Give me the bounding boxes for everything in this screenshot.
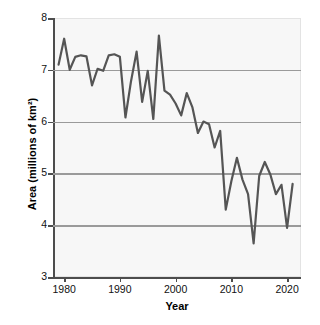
series-area xyxy=(59,36,293,244)
y-tick-label-8: 8 xyxy=(25,12,47,23)
x-tick-2000 xyxy=(176,277,178,282)
y-tick-label-3: 3 xyxy=(25,271,47,282)
chart-figure: 345678 19801990200020102020 Area (millio… xyxy=(0,0,320,325)
x-tick-2010 xyxy=(231,277,233,282)
x-tick-1990 xyxy=(120,277,122,282)
x-tick-2020 xyxy=(287,277,289,282)
x-tick-label-2010: 2010 xyxy=(211,284,251,295)
x-tick-1980 xyxy=(64,277,66,282)
x-axis-title: Year xyxy=(53,300,301,312)
x-tick-label-2000: 2000 xyxy=(156,284,196,295)
x-tick-label-2020: 2020 xyxy=(267,284,307,295)
data-series-line xyxy=(53,18,301,277)
y-tick-3 xyxy=(48,277,53,279)
x-tick-label-1980: 1980 xyxy=(44,284,84,295)
x-tick-label-1990: 1990 xyxy=(100,284,140,295)
y-axis-title: Area (millions of km²) xyxy=(26,54,38,254)
